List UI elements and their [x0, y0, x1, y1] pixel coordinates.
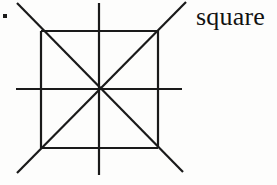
- figure-canvas: square: [0, 0, 277, 185]
- figure-line-group: [16, 2, 186, 175]
- figure-label-square: square: [196, 2, 265, 32]
